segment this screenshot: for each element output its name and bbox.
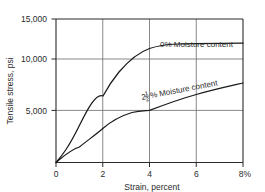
xtick-label-0: 0 bbox=[54, 169, 59, 179]
y-axis-title: Tensile stress, psi bbox=[5, 57, 15, 124]
ytick-label-10000: 10,000 bbox=[21, 54, 47, 64]
xtick-label-2: 2 bbox=[100, 169, 105, 179]
ytick-label-5000: 5,000 bbox=[26, 106, 48, 116]
xtick-label-6: 6 bbox=[194, 169, 199, 179]
xtick-label-4: 4 bbox=[147, 169, 152, 179]
x-axis-title: Strain, percent bbox=[124, 182, 180, 192]
chart-figure: 15,000 10,000 5,000 0 2 4 6 8% Tensile s… bbox=[0, 0, 265, 192]
xtick-label-8: 8% bbox=[239, 169, 252, 179]
chart-svg: 15,000 10,000 5,000 0 2 4 6 8% Tensile s… bbox=[0, 0, 265, 192]
ytick-label-15000: 15,000 bbox=[21, 14, 47, 24]
curve-label-0-percent: 0% Moisture content bbox=[160, 40, 234, 49]
chart-background bbox=[0, 0, 265, 192]
